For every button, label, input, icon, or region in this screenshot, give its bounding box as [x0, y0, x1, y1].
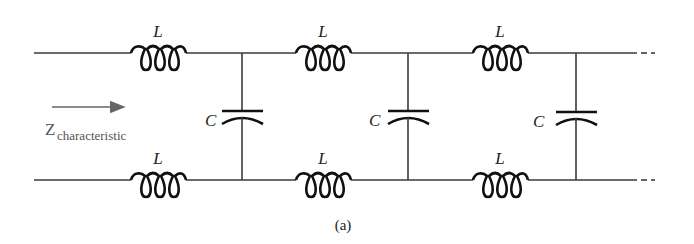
lc-ladder-diagram: L L L L L L C C C Z characteristic (a) [0, 0, 694, 244]
capacitor-label: C [533, 112, 545, 131]
inductor-label: L [494, 22, 504, 41]
inductor-bottom-3 [473, 173, 528, 197]
inductor-top-2 [296, 46, 351, 70]
capacitor-label: C [205, 111, 217, 130]
inductor-bottom-1 [131, 173, 186, 197]
inductor-top-3 [473, 46, 528, 70]
capacitor-label: C [369, 111, 381, 130]
impedance-subscript: characteristic [57, 128, 127, 143]
inductor-label: L [152, 149, 162, 168]
inductor-label: L [317, 149, 327, 168]
inductor-top-1 [131, 46, 186, 70]
inductor-label: L [494, 149, 504, 168]
figure-caption: (a) [335, 217, 352, 234]
inductor-label: L [317, 22, 327, 41]
impedance-label: Z [45, 120, 55, 139]
capacitor-2 [388, 53, 429, 180]
capacitor-3 [556, 53, 597, 180]
inductor-bottom-2 [296, 173, 351, 197]
capacitor-1 [222, 53, 263, 180]
inductor-label: L [152, 22, 162, 41]
